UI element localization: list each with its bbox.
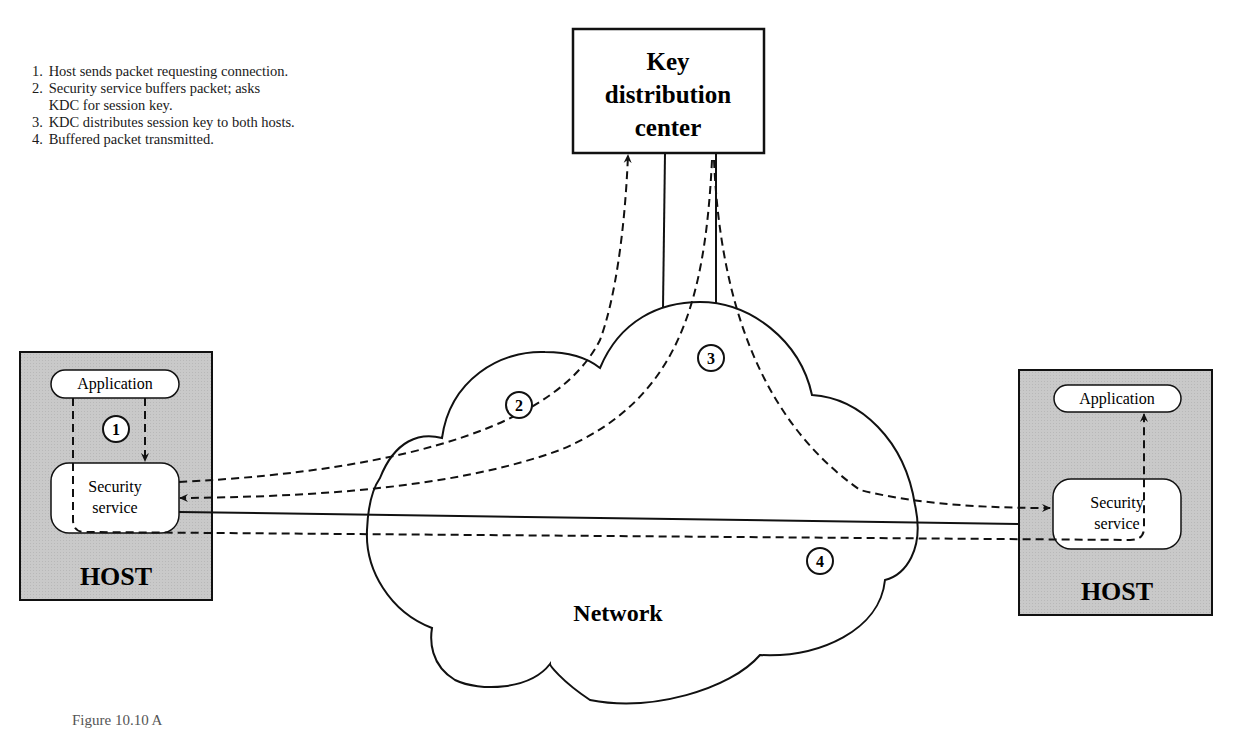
left-security-service-box [51,463,179,533]
right-security-label-1: Security [1090,494,1143,512]
network-label: Network [573,600,663,626]
svg-text:2: 2 [515,397,523,414]
left-host-label: HOST [80,562,152,591]
svg-text:1: 1 [112,421,120,438]
marker-2: 2 [506,392,532,418]
left-security-label-2: service [92,499,137,516]
kdc-network-link-1 [663,153,665,308]
right-application-label: Application [1079,390,1155,408]
svg-text:4: 4 [816,553,824,570]
figure-caption: Figure 10.10 A [72,712,162,729]
right-host-label: HOST [1081,577,1153,606]
right-security-service-box [1053,479,1181,549]
kdc-label-line3: center [635,114,702,141]
left-security-label-1: Security [88,478,141,496]
svg-text:3: 3 [707,350,715,367]
left-application-label: Application [77,375,153,393]
network-cloud [367,302,918,703]
right-security-label-2: service [1094,515,1139,532]
marker-3: 3 [698,345,724,371]
kdc-label-line2: distribution [605,81,732,108]
marker-4: 4 [807,548,833,574]
left-host: Application Security service HOST [20,352,212,600]
kdc-label-line1: Key [646,48,690,75]
key-distribution-center: Key distribution center [573,29,764,153]
right-host: Application Security service HOST [1019,370,1212,615]
marker-1: 1 [103,416,129,442]
